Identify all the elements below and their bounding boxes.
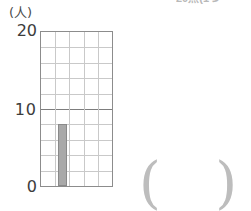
answer-parentheses[interactable]: ( ) xyxy=(139,157,237,209)
y-axis-tick-labels: 20 10 0 xyxy=(0,0,37,211)
y-tick-10: 10 xyxy=(15,102,37,118)
clipped-header-label: 20点(1つ xyxy=(176,0,251,5)
bar-chart-plot-area xyxy=(40,31,113,187)
close-paren: ) xyxy=(215,157,237,209)
open-paren: ( xyxy=(139,157,161,209)
y-tick-20: 20 xyxy=(17,23,37,39)
clipped-header-text: 20点(1つ xyxy=(176,0,251,5)
bar-2 xyxy=(58,124,67,186)
worksheet-page: 20点(1つ (人) 20 10 0 ( ) xyxy=(0,0,251,211)
y-tick-0: 0 xyxy=(27,179,37,195)
bar-series xyxy=(41,32,112,186)
